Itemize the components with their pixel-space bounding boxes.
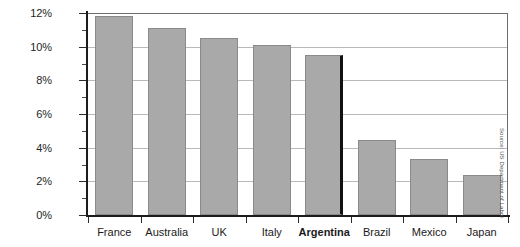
x-tick-mark (456, 217, 457, 223)
x-tick-mark (351, 217, 352, 223)
x-tick-mark (88, 217, 89, 223)
x-tick-mark (403, 217, 404, 223)
bar (148, 28, 186, 215)
x-tick-label: Brazil (351, 226, 404, 238)
bar (463, 175, 501, 215)
x-tick-mark (298, 217, 299, 223)
x-tick-mark (508, 217, 509, 223)
bar (253, 45, 291, 215)
source-note: Source: US Department of Labor (498, 128, 505, 218)
x-tick-label: Japan (456, 226, 509, 238)
bar-chart: 0%2%4%6%8%10%12% FranceAustraliaUKItalyA… (0, 0, 520, 247)
x-tick-mark (141, 217, 142, 223)
bar (200, 38, 238, 215)
x-tick-label: Australia (141, 226, 194, 238)
bars-layer (0, 0, 520, 247)
x-tick-label: Italy (246, 226, 299, 238)
x-tick-mark (246, 217, 247, 223)
bar (95, 16, 133, 215)
x-tick-label: Mexico (403, 226, 456, 238)
bar (410, 159, 448, 215)
x-tick-label: UK (193, 226, 246, 238)
bar (358, 140, 396, 215)
bar (305, 55, 343, 215)
x-tick-label: France (88, 226, 141, 238)
x-tick-label: Argentina (298, 226, 351, 238)
x-tick-mark (193, 217, 194, 223)
